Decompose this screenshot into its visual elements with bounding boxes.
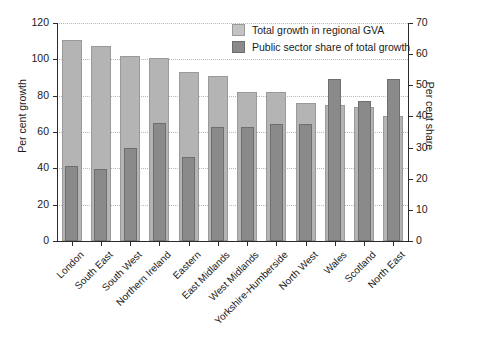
- bar-public-share: [124, 148, 137, 241]
- x-tick: [189, 241, 190, 246]
- x-tick: [335, 241, 336, 246]
- bar-public-share: [270, 124, 283, 241]
- y-axis-right-title: Per cent share: [424, 56, 436, 176]
- y-tick-left-120: [53, 23, 57, 24]
- x-tick: [393, 241, 394, 246]
- bar-public-share: [182, 157, 195, 241]
- bar-public-share: [153, 123, 166, 241]
- bar-public-share: [211, 127, 224, 241]
- x-tick: [130, 241, 131, 246]
- y-axis-left-title: Per cent growth: [16, 56, 28, 176]
- y-axis-left-line: [57, 23, 58, 241]
- x-tick: [276, 241, 277, 246]
- legend-label-public-sector: Public sector share of total growth: [252, 41, 410, 53]
- bar-public-share: [94, 169, 107, 241]
- bar-public-share: [328, 79, 341, 241]
- x-tick: [159, 241, 160, 246]
- bar-public-share: [387, 79, 400, 241]
- y-tick-label-right-10: 10: [416, 204, 428, 214]
- y-tick-left-80: [53, 96, 57, 97]
- x-tick: [364, 241, 365, 246]
- x-tick: [101, 241, 102, 246]
- y-tick-right-20: [409, 179, 413, 180]
- legend-item-public: Public sector share of total growth: [232, 40, 410, 53]
- bar-public-share: [241, 127, 254, 241]
- y-tick-label-left-40: 40: [37, 162, 49, 172]
- y-tick-label-left-60: 60: [37, 126, 49, 136]
- legend-item-total: Total growth in regional GVA: [232, 23, 410, 36]
- y-tick-label-left-120: 120: [31, 17, 49, 27]
- y-tick-right-30: [409, 148, 413, 149]
- y-tick-left-0: [53, 241, 57, 242]
- y-tick-right-10: [409, 210, 413, 211]
- bar-chart: 020406080100120 010203040506070 LondonSo…: [0, 0, 477, 344]
- chart-legend: Total growth in regional GVA Public sect…: [232, 23, 410, 57]
- x-tick: [218, 241, 219, 246]
- y-tick-left-60: [53, 132, 57, 133]
- y-tick-label-left-100: 100: [31, 53, 49, 63]
- bar-public-share: [65, 166, 78, 241]
- y-tick-label-left-80: 80: [37, 90, 49, 100]
- y-tick-right-0: [409, 241, 413, 242]
- legend-label-total-growth: Total growth in regional GVA: [252, 24, 384, 36]
- y-tick-label-left-20: 20: [37, 199, 49, 209]
- x-tick: [72, 241, 73, 246]
- x-axis-line: [57, 241, 409, 242]
- y-tick-right-50: [409, 85, 413, 86]
- x-tick: [306, 241, 307, 246]
- y-tick-left-40: [53, 168, 57, 169]
- bar-public-share: [299, 124, 312, 241]
- x-tick: [247, 241, 248, 246]
- y-tick-right-40: [409, 116, 413, 117]
- y-tick-left-20: [53, 205, 57, 206]
- legend-swatch-total-growth: [232, 24, 245, 36]
- y-tick-label-right-0: 0: [416, 235, 422, 245]
- y-tick-label-left-0: 0: [43, 235, 49, 245]
- legend-swatch-public-sector: [232, 41, 245, 53]
- y-tick-left-100: [53, 59, 57, 60]
- y-tick-label-right-70: 70: [416, 17, 428, 27]
- bar-public-share: [358, 101, 371, 241]
